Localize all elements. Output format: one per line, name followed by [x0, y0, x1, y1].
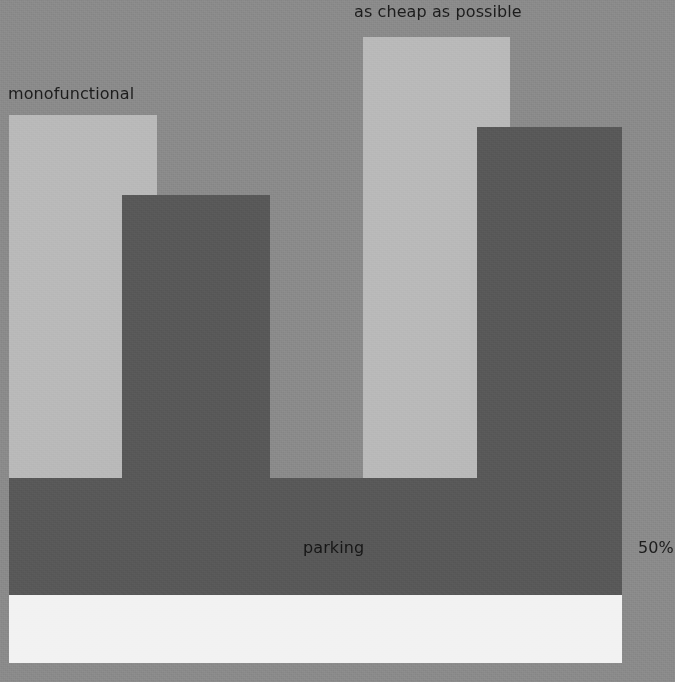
label-parking: parking [303, 538, 364, 557]
band-base-white [9, 595, 622, 663]
band-parking [9, 478, 622, 595]
diagram-canvas: monofunctional as cheap as possible park… [0, 0, 675, 682]
bar-dark-fourth [477, 127, 622, 478]
label-percent-50: 50% [638, 538, 674, 557]
bar-dark-second [122, 195, 270, 478]
label-as-cheap-as-possible: as cheap as possible [354, 2, 522, 21]
label-monofunctional: monofunctional [8, 84, 134, 103]
